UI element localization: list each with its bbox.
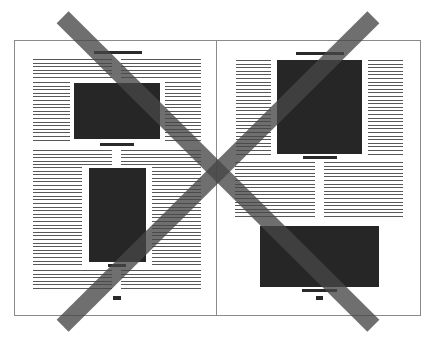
- right-caption-bar-1: [303, 156, 337, 159]
- left-page-number: [113, 296, 121, 300]
- left-text-mid-col1: [33, 150, 112, 165]
- left-text-side-left-2: [33, 167, 82, 267]
- right-text-col2: [324, 162, 403, 219]
- left-caption-bar-1: [100, 143, 134, 146]
- left-text-side-left-1: [33, 82, 70, 142]
- left-text-bottom-col2: [121, 270, 201, 292]
- right-text-side-right: [368, 60, 403, 156]
- right-page-number: [316, 296, 323, 300]
